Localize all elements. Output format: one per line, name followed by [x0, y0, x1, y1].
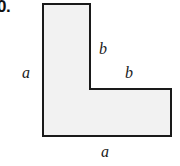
dimension-label-a-left: a — [22, 65, 30, 81]
dimension-label-b-lower: b — [125, 65, 133, 81]
l-shape-polygon — [43, 4, 171, 136]
figure-page: 0. a b b a — [0, 0, 180, 166]
l-shape-figure — [0, 0, 180, 166]
dimension-label-a-bottom: a — [101, 144, 109, 160]
dimension-label-b-upper: b — [99, 41, 107, 57]
item-number: 0. — [0, 0, 10, 15]
